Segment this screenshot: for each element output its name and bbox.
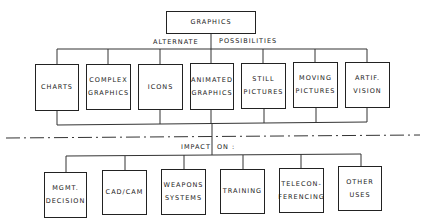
caption-impact: IMPACT (181, 143, 211, 151)
alt-box-charts: CHARTS (35, 64, 79, 111)
alt-box-artif-vision: ARTIF. VISION (345, 62, 390, 108)
root-box-graphics: GRAPHICS (166, 11, 256, 34)
separator-line (6, 135, 420, 138)
impact-box-training: TRAINING (220, 169, 265, 214)
alt-box-icons: ICONS (138, 64, 183, 110)
impact-box-weapons-systems: WEAPONS SYSTEMS (161, 169, 206, 215)
caption-alternate: ALTERNATE (153, 38, 199, 46)
impact-box-cad-cam: CAD/CAM (102, 170, 147, 215)
caption-on: ON : (217, 143, 235, 151)
alt-box-still-pictures: STILL PICTURES (241, 63, 286, 109)
impact-box-other-uses: OTHER USES (338, 166, 382, 211)
impact-box-teleconferencing: TELECON- FERENCING (279, 168, 324, 213)
alt-box-moving-pictures: MOVING PICTURES (293, 62, 338, 108)
alt-box-animated-graphics: ANIMATED GRAPHICS (190, 63, 234, 110)
root-label: GRAPHICS (190, 16, 231, 29)
impact-box-mgmt-decision: MGMT. DECISION (44, 172, 87, 218)
alt-box-complex-graphics: COMPLEX GRAPHICS (86, 64, 131, 110)
caption-possibilities: POSSIBILITIES (219, 37, 277, 45)
